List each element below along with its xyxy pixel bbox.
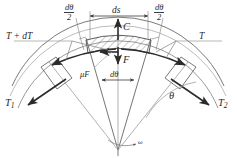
half-angle-right-denominator: 2: [154, 13, 164, 22]
t2-subscript: 2: [224, 101, 228, 110]
diagram-canvas: [0, 0, 237, 158]
half-angle-right-numerator: dθ: [154, 3, 164, 13]
half-angle-right-label: dθ 2: [154, 3, 164, 22]
half-angle-left-label: dθ 2: [64, 3, 74, 22]
centrifugal-force-label: C: [123, 22, 130, 33]
angular-velocity-indicator: [108, 140, 136, 156]
half-angle-left-denominator: 2: [64, 13, 74, 22]
t1-subscript: 1: [11, 101, 15, 110]
angular-velocity-label: ω: [138, 139, 143, 146]
half-angle-left-numerator: dθ: [64, 3, 74, 13]
tension-out-label: T: [199, 32, 204, 42]
tight-side-tension-label: T2: [218, 98, 228, 109]
wrap-angle-label: θ: [169, 91, 174, 102]
slack-side-tension-label: T1: [5, 98, 15, 109]
friction-force-leader: [94, 52, 112, 68]
tension-t1-arrow: [28, 79, 66, 105]
arc-length-label: ds: [112, 6, 120, 16]
belt-friction-diagram: T + dT T T1 T2 C F μF ds dθ 2 dθ 2 dθ θ …: [0, 0, 237, 158]
belt-right-end: [165, 57, 196, 89]
tension-in-label: T + dT: [6, 32, 32, 42]
belt-left-end: [41, 57, 72, 89]
normal-force-label: F: [123, 55, 129, 66]
friction-force-label: μF: [80, 70, 89, 79]
element-angle-label: dθ: [110, 70, 118, 79]
